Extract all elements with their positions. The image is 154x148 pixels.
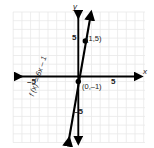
data-point-0-neg1	[76, 79, 81, 84]
x-tick-label-pos5: 5	[111, 78, 115, 86]
point-label-1-5: (1,5)	[86, 35, 101, 43]
coordinate-plane	[0, 0, 154, 148]
graph-figure: –5 5 5 –5 x y (1,5) (0,–1) f (x) = 6x – …	[0, 0, 154, 148]
y-tick-label-pos5: 5	[72, 34, 76, 42]
point-label-0-neg1: (0,–1)	[82, 83, 102, 91]
x-axis-label: x	[143, 68, 147, 76]
y-tick-label-neg5: –5	[74, 108, 83, 116]
y-axis-label: y	[73, 3, 77, 11]
